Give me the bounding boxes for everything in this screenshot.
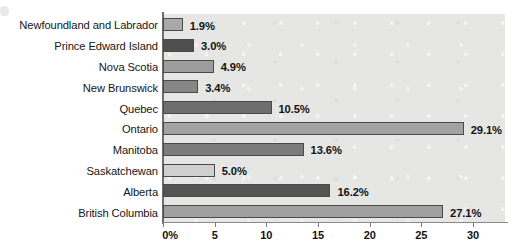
tick-mark [163,222,164,227]
tick-label: 15 [312,229,324,241]
bar [163,39,194,52]
tick-label: 25 [415,229,427,241]
category-label: Quebec [0,104,158,115]
bar [163,143,304,156]
tick-label: 20 [364,229,376,241]
tick-mark [370,222,371,227]
bar [163,80,198,93]
bar [163,184,330,197]
bar-value-label: 3.0% [201,41,226,52]
bar-value-label: 10.5% [279,104,310,115]
bar-value-label: 29.1% [471,125,502,136]
category-label: New Brunswick [0,83,158,94]
tick-mark [215,222,216,227]
tick-label: 30 [467,229,479,241]
bar [163,164,215,177]
tick-label: 10 [260,229,272,241]
category-label: Prince Edward Island [0,41,158,52]
category-label: Ontario [0,124,158,135]
bar [163,101,272,114]
category-label: Newfoundland and Labrador [0,20,158,31]
bar-value-label: 3.4% [205,83,230,94]
bar-chart: Newfoundland and LabradorPrince Edward I… [0,0,516,252]
tick-mark [473,222,474,227]
tick-label: 5 [212,229,218,241]
bar-value-label: 16.2% [337,187,368,198]
bar [163,18,183,31]
bar [163,60,214,73]
category-axis-labels: Newfoundland and LabradorPrince Edward I… [0,14,158,222]
bar-value-label: 27.1% [450,208,481,219]
tick-label: 0% [162,229,178,241]
category-label: Alberta [0,187,158,198]
category-label: Saskatchewan [0,166,158,177]
category-label: British Columbia [0,208,158,219]
bar-value-label: 13.6% [311,145,342,156]
bar-value-label: 1.9% [190,21,215,32]
bar-value-label: 5.0% [222,166,247,177]
bar [163,122,464,135]
category-label: Manitoba [0,145,158,156]
tick-mark [318,222,319,227]
tick-mark [266,222,267,227]
category-label: Nova Scotia [0,62,158,73]
tick-mark [421,222,422,227]
bar-value-label: 4.9% [221,62,246,73]
bar [163,205,443,218]
